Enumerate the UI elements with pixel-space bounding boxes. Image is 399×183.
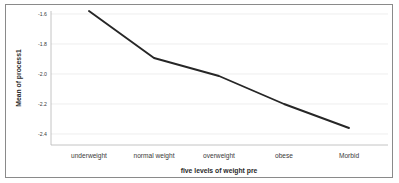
y-axis-title: Mean of process1	[15, 49, 23, 107]
data-series-line	[89, 11, 349, 128]
x-tick-label-morbid: Morbid	[339, 152, 359, 159]
line-chart-svg: -1.6 -1.8 -2.0 -2.2 -2.4 underweight nor…	[6, 5, 394, 179]
data-series-line-group	[89, 11, 349, 128]
y-tick-label-2: -2.0	[38, 71, 47, 77]
y-tick-labels: -1.6 -1.8 -2.0 -2.2 -2.4	[38, 11, 47, 137]
x-tick-label-underweight: underweight	[71, 152, 107, 160]
y-tick-label-3: -2.2	[38, 101, 47, 107]
chart-figure-frame: -1.6 -1.8 -2.0 -2.2 -2.4 underweight nor…	[5, 4, 393, 178]
y-axis-title-group: Mean of process1	[15, 49, 23, 107]
chart-plot-area: -1.6 -1.8 -2.0 -2.2 -2.4 underweight nor…	[6, 5, 394, 179]
y-gridlines	[51, 14, 388, 134]
y-tick-label-4: -2.4	[38, 131, 47, 137]
x-tick-label-normal-weight: normal weight	[133, 152, 174, 160]
x-tick-labels: underweight normal weight overweight obe…	[71, 152, 359, 160]
x-axis-title: five levels of weight pre	[181, 167, 258, 175]
y-tick-label-1: -1.8	[38, 41, 47, 47]
x-axis-title-group: five levels of weight pre	[181, 167, 258, 175]
y-tick-label-0: -1.6	[38, 11, 47, 17]
x-tick-label-obese: obese	[275, 152, 293, 159]
x-tick-label-overweight: overweight	[203, 152, 235, 160]
